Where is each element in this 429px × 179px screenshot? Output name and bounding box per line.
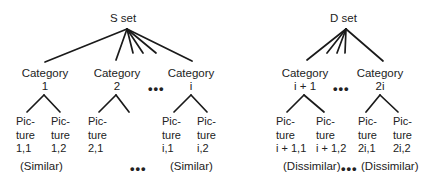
picture-i-2: Pic- ture i,2 <box>197 115 216 156</box>
similar-note-2: (Similar) <box>170 160 213 173</box>
pic-index: 2i,2 <box>393 142 412 156</box>
pic-index: i + 1,2 <box>316 142 346 156</box>
ellipsis-pictures-s: ••• <box>130 164 147 174</box>
category-2i: Category 2i <box>351 67 409 93</box>
pic-index: 2,1 <box>88 142 107 156</box>
edge-cat1-p12 <box>44 95 60 112</box>
dissimilar-note-2: (Dissimilar) <box>361 160 419 173</box>
picture-2i-2: Pic- ture 2i,2 <box>393 115 412 156</box>
dissimilar-note-1: (Dissimilar) <box>283 160 341 173</box>
pic-index: 1,2 <box>51 142 70 156</box>
pic-index: 1,1 <box>16 142 35 156</box>
pic-line2: ture <box>276 129 306 143</box>
edge-cati1-p2 <box>304 95 324 112</box>
category-index: 2i <box>351 80 409 93</box>
pic-line1: Pic- <box>51 115 70 129</box>
pic-index: i,2 <box>197 142 216 156</box>
category-index: i <box>162 80 220 93</box>
category-i: Category i <box>162 67 220 93</box>
pic-line2: ture <box>393 129 412 143</box>
category-2: Category 2 <box>88 67 146 93</box>
pic-line2: ture <box>197 129 216 143</box>
picture-1-2: Pic- ture 1,2 <box>51 115 70 156</box>
category-index: i + 1 <box>276 80 334 93</box>
edge-d-extra3 <box>345 29 346 53</box>
category-i-plus-1: Category i + 1 <box>276 67 334 93</box>
pic-line1: Pic- <box>16 115 35 129</box>
edge-cat2i-p2 <box>380 95 398 112</box>
picture-2i-1: Pic- ture 2i,1 <box>358 115 377 156</box>
pic-index: 2i,1 <box>358 142 377 156</box>
picture-i1-1: Pic- ture i + 1,1 <box>276 115 306 156</box>
edge-s-cat1 <box>45 29 127 62</box>
pic-line2: ture <box>358 129 377 143</box>
pic-line1: Pic- <box>358 115 377 129</box>
pic-line2: ture <box>316 129 346 143</box>
edge-cat1-p11 <box>27 95 44 112</box>
edge-cat2-p21 <box>99 95 116 112</box>
d-set-title: D set <box>330 12 357 25</box>
ellipsis-pictures-d: ••• <box>341 164 358 174</box>
edge-cati-pi1 <box>174 95 191 112</box>
edge-cati-pi2 <box>191 95 207 112</box>
pic-line2: ture <box>162 129 181 143</box>
pic-index: i + 1,1 <box>276 142 306 156</box>
edge-cat2-extra <box>116 95 129 112</box>
similar-note-1: (Similar) <box>20 160 63 173</box>
picture-2-1: Pic- ture 2,1 <box>88 115 107 156</box>
pic-line1: Pic- <box>197 115 216 129</box>
category-label: Category <box>276 67 334 80</box>
category-index: 2 <box>88 80 146 93</box>
category-index: 1 <box>16 80 74 93</box>
pic-line1: Pic- <box>316 115 346 129</box>
pic-line2: ture <box>16 129 35 143</box>
pic-line2: ture <box>51 129 70 143</box>
category-label: Category <box>351 67 409 80</box>
pic-line2: ture <box>88 129 107 143</box>
picture-1-1: Pic- ture 1,1 <box>16 115 35 156</box>
s-set-title: S set <box>110 12 136 25</box>
category-label: Category <box>162 67 220 80</box>
category-1: Category 1 <box>16 67 74 93</box>
pic-line1: Pic- <box>162 115 181 129</box>
category-label: Category <box>88 67 146 80</box>
pic-line1: Pic- <box>393 115 412 129</box>
picture-i-1: Pic- ture i,1 <box>162 115 181 156</box>
edge-cati1-p1 <box>287 95 304 112</box>
edge-cat2i-p1 <box>366 95 380 112</box>
pic-line1: Pic- <box>276 115 306 129</box>
category-label: Category <box>16 67 74 80</box>
pic-index: i,1 <box>162 142 181 156</box>
ellipsis-categories-d: ••• <box>333 84 350 94</box>
edge-d-cat2i <box>346 29 383 61</box>
pic-line1: Pic- <box>88 115 107 129</box>
picture-i1-2: Pic- ture i + 1,2 <box>316 115 346 156</box>
